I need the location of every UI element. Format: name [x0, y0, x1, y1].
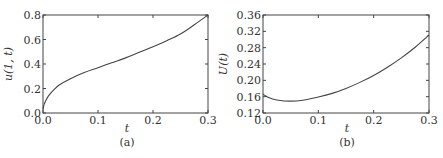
y-tick-label: 0.36 [237, 9, 262, 22]
panel-b-ylabel: U(t) [217, 53, 230, 75]
y-tick-label: 0.12 [237, 107, 262, 120]
x-tick-label: 0.1 [89, 114, 107, 127]
x-tick-label: 0.1 [310, 114, 328, 127]
y-tick-label: 0.4 [24, 58, 42, 71]
y-tick-label: 0.0 [24, 107, 42, 120]
y-tick-label: 0.16 [237, 91, 262, 104]
y-tick-label: 0.6 [24, 34, 42, 47]
y-tick-label: 0.20 [237, 74, 262, 87]
series-line [43, 15, 208, 109]
y-tick-label: 0.2 [24, 83, 42, 96]
x-tick-label: 0.3 [199, 114, 217, 127]
x-tick-label: 0.2 [365, 114, 383, 127]
panel-a-caption: (a) [119, 136, 134, 149]
y-tick-label: 0.28 [237, 42, 262, 55]
panel-a-xlabel: t [125, 122, 130, 135]
figure: 0.00.10.20.30.00.20.40.60.8 0.00.10.20.3… [0, 0, 443, 158]
y-tick-label: 0.24 [237, 58, 262, 71]
plot-frame [263, 15, 429, 113]
series-line [263, 35, 429, 101]
panel-a-plot: 0.00.10.20.30.00.20.40.60.8 [24, 9, 217, 127]
y-tick-label: 0.8 [24, 9, 42, 22]
plot-frame [43, 15, 208, 113]
panel-b-xlabel: t [345, 122, 350, 135]
x-tick-label: 0.2 [144, 114, 162, 127]
panel-b-caption: (b) [339, 136, 355, 149]
panel-b-plot: 0.00.10.20.30.120.160.200.240.280.320.36 [237, 9, 438, 127]
x-tick-label: 0.3 [420, 114, 438, 127]
panel-a-ylabel: u(1, t) [2, 47, 15, 81]
y-tick-label: 0.32 [237, 25, 262, 38]
